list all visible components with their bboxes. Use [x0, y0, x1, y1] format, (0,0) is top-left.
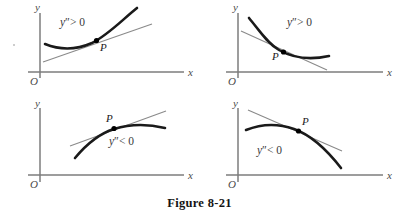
point-p-dot [111, 126, 116, 131]
tangent-line [43, 24, 152, 62]
origin-label: O [30, 75, 38, 87]
point-p-label: P [99, 41, 107, 53]
point-p-label: P [105, 112, 113, 124]
condition-label: y″> 0 [59, 16, 85, 29]
panel-top-left: P y″> 0 y x O [0, 0, 200, 100]
panel-bottom-left-graph: P y″< 0 y x O [0, 98, 200, 198]
origin-label: O [30, 178, 38, 190]
y-axis-label: y [232, 1, 238, 13]
condition-label: y″> 0 [286, 16, 312, 29]
condition-relation: > 0 [297, 16, 312, 28]
x-axis-label: x [386, 66, 392, 78]
x-axis-label: x [187, 66, 193, 78]
y-axis-label: y [34, 98, 40, 109]
figure-caption: Figure 8-21 [0, 196, 399, 211]
origin-label: O [228, 178, 236, 190]
y-axis-label: y [232, 98, 238, 109]
point-p-dot [94, 38, 99, 43]
condition-relation: > 0 [70, 16, 85, 28]
panel-top-left-graph: P y″> 0 y x O [0, 0, 200, 100]
point-p-dot [296, 128, 301, 133]
panel-bottom-right: P y″< 0 y x O [199, 98, 399, 198]
x-axis-label: x [386, 169, 392, 181]
x-axis-label: x [187, 169, 193, 181]
panel-bottom-left: P y″< 0 y x O [0, 98, 200, 198]
origin-label: O [228, 75, 236, 87]
point-p-dot [281, 49, 286, 54]
panel-top-right: P y″> 0 y x O [199, 0, 399, 100]
panel-top-right-graph: P y″> 0 y x O [199, 0, 399, 100]
condition-relation: < 0 [119, 135, 134, 147]
figure-8-21: P y″> 0 y x O P y″> 0 y x O [0, 0, 399, 221]
condition-relation: < 0 [267, 144, 282, 156]
condition-label: y″< 0 [256, 144, 282, 157]
condition-label: y″< 0 [108, 135, 134, 148]
scan-speck [13, 44, 15, 46]
curve [45, 8, 137, 48]
panel-bottom-right-graph: P y″< 0 y x O [199, 98, 399, 198]
point-p-label: P [271, 50, 279, 62]
point-p-label: P [301, 115, 309, 127]
y-axis-label: y [34, 1, 40, 13]
